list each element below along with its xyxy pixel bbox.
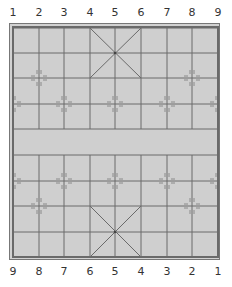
- palace-center-dot: [114, 52, 117, 55]
- file-label: 6: [82, 266, 98, 278]
- file-label: 7: [56, 266, 72, 278]
- file-label: 5: [107, 266, 123, 278]
- file-label: 8: [31, 266, 47, 278]
- file-label: 4: [133, 266, 149, 278]
- file-label: 1: [210, 266, 226, 278]
- file-label: 9: [5, 266, 21, 278]
- palace-center-dot: [114, 231, 117, 234]
- file-label: 2: [184, 266, 200, 278]
- file-label: 3: [159, 266, 175, 278]
- board-grid[interactable]: [0, 0, 232, 287]
